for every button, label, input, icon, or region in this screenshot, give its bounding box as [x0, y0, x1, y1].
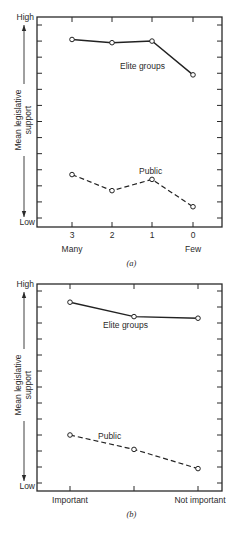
figure: 3210ManyFew(a)HighLowMean legislativesup… — [0, 0, 238, 535]
y-high-label: High — [17, 12, 35, 22]
arrow-up-icon — [22, 25, 26, 31]
x-tick-label: 1 — [150, 230, 155, 240]
y-axis-label: Mean legislativesupport — [13, 84, 33, 156]
data-point-public — [191, 204, 196, 209]
y-axis-label-line1: Mean legislative — [13, 89, 23, 150]
x-tick-label: Important — [52, 495, 89, 505]
y-axis-label: Mean legislativesupport — [13, 349, 33, 421]
series-label-elite-groups: Elite groups — [120, 61, 165, 71]
plot-frame — [37, 17, 222, 227]
data-point-public — [150, 177, 155, 182]
data-point-public — [110, 188, 115, 193]
y-low-label: Low — [19, 217, 35, 227]
data-point-elite — [70, 37, 75, 42]
y-axis-label-line2: support — [23, 370, 33, 399]
x-tick-label: 0 — [191, 230, 196, 240]
data-point-elite — [196, 316, 201, 321]
arrow-up-icon — [22, 292, 26, 298]
x-tick-label: Not important — [174, 495, 226, 505]
x-sublabel-few: Few — [185, 244, 202, 254]
chart-panel-b: ImportantNot important(b)HighLowMean leg… — [13, 279, 226, 519]
series-label-elite-groups: Elite groups — [103, 320, 148, 330]
data-point-public — [132, 447, 137, 452]
series-line-public — [72, 175, 193, 207]
x-tick-label: 3 — [70, 230, 75, 240]
y-axis-label-line2: support — [23, 105, 33, 134]
y-high-label: High — [17, 279, 35, 289]
x-sublabel-many: Many — [62, 244, 84, 254]
chart-panel-a: 3210ManyFew(a)HighLowMean legislativesup… — [13, 12, 222, 268]
data-point-elite — [132, 314, 137, 319]
panel-caption: (b) — [127, 509, 137, 519]
data-point-public — [70, 172, 75, 177]
data-point-public — [68, 433, 73, 438]
series-label-public: Public — [139, 166, 163, 176]
data-point-public — [196, 466, 201, 471]
y-axis-label-line1: Mean legislative — [13, 354, 23, 415]
series-label-public: Public — [98, 431, 122, 441]
panel-caption: (a) — [127, 258, 137, 268]
y-low-label: Low — [19, 481, 35, 491]
data-point-elite — [191, 73, 196, 78]
data-point-elite — [68, 300, 73, 305]
x-tick-label: 2 — [110, 230, 115, 240]
data-point-elite — [150, 39, 155, 44]
data-point-elite — [110, 40, 115, 45]
